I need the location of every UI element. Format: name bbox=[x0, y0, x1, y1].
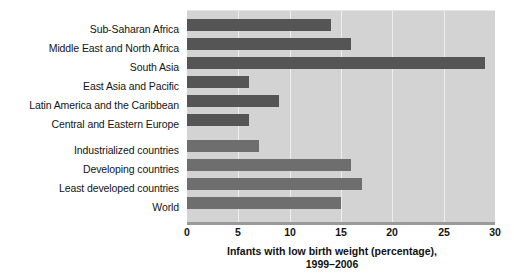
category-axis-labels: Sub-Saharan Africa Middle East and North… bbox=[0, 10, 183, 222]
bar bbox=[187, 57, 485, 69]
category-label: Least developed countries bbox=[59, 182, 179, 194]
gridline bbox=[444, 11, 445, 222]
x-tick-label: 20 bbox=[386, 226, 398, 238]
x-tick-label: 30 bbox=[489, 226, 501, 238]
x-tick-label: 15 bbox=[335, 226, 347, 238]
x-axis-title-line2: 1999–2006 bbox=[150, 258, 514, 271]
x-tick-label: 5 bbox=[235, 226, 241, 238]
bar bbox=[187, 19, 331, 31]
category-label: Industrialized countries bbox=[74, 144, 179, 156]
category-label: Latin America and the Caribbean bbox=[29, 99, 179, 111]
x-tick-label: 25 bbox=[438, 226, 450, 238]
x-tick-label: 10 bbox=[284, 226, 296, 238]
bar bbox=[187, 140, 259, 152]
x-tick-label: 0 bbox=[184, 226, 190, 238]
bar bbox=[187, 159, 351, 171]
x-axis-ticks: 0 5 10 15 20 25 30 bbox=[187, 226, 495, 242]
bar-chart: Sub-Saharan Africa Middle East and North… bbox=[0, 0, 514, 279]
x-axis-title: Infants with low birth weight (percentag… bbox=[150, 245, 514, 271]
category-label: World bbox=[152, 201, 179, 213]
bar bbox=[187, 38, 351, 50]
x-axis-line bbox=[187, 222, 495, 225]
bar bbox=[187, 76, 249, 88]
category-label: Middle East and North Africa bbox=[49, 42, 179, 54]
category-label: Developing countries bbox=[83, 163, 179, 175]
category-label: Sub-Saharan Africa bbox=[90, 23, 179, 35]
bar bbox=[187, 178, 362, 190]
category-label: Central and Eastern Europe bbox=[51, 118, 179, 130]
category-label: South Asia bbox=[130, 61, 179, 73]
bar bbox=[187, 114, 249, 126]
x-axis-title-line1: Infants with low birth weight (percentag… bbox=[227, 245, 437, 257]
category-label: East Asia and Pacific bbox=[83, 80, 179, 92]
plot-area bbox=[187, 10, 495, 222]
gridline bbox=[392, 11, 393, 222]
bar bbox=[187, 197, 341, 209]
bar bbox=[187, 95, 279, 107]
